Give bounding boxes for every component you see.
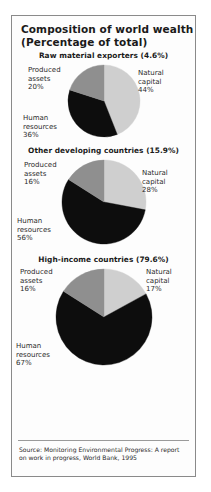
- page-subtitle: (Percentage of total): [21, 36, 195, 49]
- slice-label-natural-capital: Natural capital 28%: [142, 169, 168, 195]
- slice-label-produced-assets: Produced assets 16%: [24, 161, 57, 187]
- chart-panel-high-income-countries: High-income countries (79.6%) Produced a…: [12, 255, 195, 376]
- pie-chart-other-developing-countries: [61, 159, 147, 245]
- pie-chart-high-income-countries: [55, 268, 153, 366]
- source-note: Source: Monitoring Environmental Progres…: [19, 446, 188, 461]
- figure-header: Composition of world wealth (Percentage …: [12, 16, 195, 51]
- source-divider: [18, 440, 189, 441]
- chart-panel-raw-material-exporters: Raw material exporters (4.6%) Produced a…: [12, 51, 195, 146]
- slice-label-natural-capital: Natural capital 17%: [146, 268, 172, 294]
- chart-panel-other-developing-countries: Other developing countries (15.9%) Produ…: [12, 146, 195, 255]
- slice-label-human-resources: Human resources 56%: [17, 217, 51, 243]
- chart-heading: Other developing countries (15.9%): [12, 146, 195, 155]
- pie-slice: [104, 160, 146, 210]
- slice-label-human-resources: Human resources 67%: [16, 342, 50, 368]
- slice-label-natural-capital: Natural capital 44%: [138, 69, 164, 95]
- slice-label-human-resources: Human resources 36%: [23, 114, 57, 140]
- page-title: Composition of world wealth: [21, 23, 195, 36]
- chart-heading: High-income countries (79.6%): [12, 255, 195, 264]
- chart-panels: Raw material exporters (4.6%) Produced a…: [12, 51, 195, 376]
- figure-panel: Composition of world wealth (Percentage …: [11, 15, 196, 477]
- slice-label-produced-assets: Produced assets 16%: [20, 268, 53, 294]
- chart-heading: Raw material exporters (4.6%): [12, 51, 195, 60]
- chart-plot-area: Produced assets 16% Natural capital 28% …: [12, 155, 195, 255]
- chart-plot-area: Produced assets 20% Natural capital 44% …: [12, 60, 195, 146]
- pie-chart-raw-material-exporters: [67, 64, 141, 138]
- slice-label-produced-assets: Produced assets 20%: [28, 66, 61, 92]
- chart-plot-area: Produced assets 16% Natural capital 17% …: [12, 264, 195, 376]
